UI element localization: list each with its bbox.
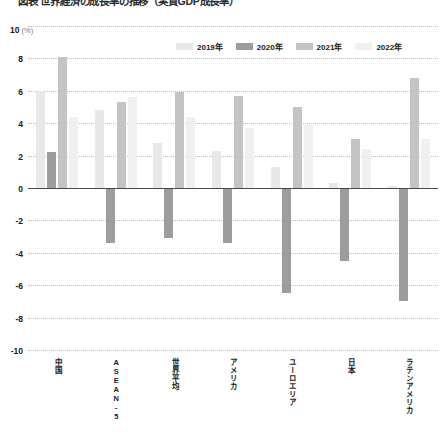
y-axis-tick-label: -2: [15, 216, 23, 226]
x-axis-label-cell: ユーロエリア: [262, 358, 321, 439]
legend-swatch: [355, 43, 372, 50]
x-axis-label: 中国: [53, 358, 61, 374]
y-axis-tick-label: 0: [18, 184, 23, 194]
bar[interactable]: [164, 188, 173, 238]
y-axis-tick-label: -8: [15, 314, 23, 324]
y-axis-tick-label: 2: [18, 152, 23, 162]
x-axis-label-cell: ラテンアメリカ: [379, 358, 438, 439]
chart-title: 図表 世界経済の成長率の推移（実質GDP成長率）: [18, 0, 239, 8]
bar[interactable]: [399, 188, 408, 301]
x-axis-label: 日本: [346, 358, 354, 374]
gridline: -10: [28, 350, 438, 351]
y-axis-tick-label: 4: [18, 119, 23, 129]
legend-swatch: [176, 43, 193, 50]
bar[interactable]: [410, 78, 419, 188]
growth-rate-bar-chart: 図表 世界経済の成長率の推移（実質GDP成長率） 10(%) 2019年2020…: [0, 0, 446, 439]
bar[interactable]: [95, 110, 104, 188]
x-axis-label-cell: 世界平均: [145, 358, 204, 439]
legend-item[interactable]: 2022年: [355, 41, 402, 52]
x-axis-label: ユーロエリア: [288, 358, 296, 406]
bar[interactable]: [282, 188, 291, 293]
bar[interactable]: [36, 91, 45, 188]
y-axis-tick-label: 8: [18, 54, 23, 64]
legend-swatch: [296, 43, 313, 50]
x-axis-label-cell: 中国: [28, 358, 87, 439]
y-axis-tick-label: -4: [15, 249, 23, 259]
bar[interactable]: [69, 117, 78, 188]
bar[interactable]: [271, 167, 280, 188]
bar[interactable]: [293, 107, 302, 188]
x-axis-label: ラテンアメリカ: [405, 358, 413, 414]
bar[interactable]: [128, 97, 137, 188]
legend-label: 2019年: [197, 41, 223, 52]
x-axis-label-cell: 日本: [321, 358, 380, 439]
x-axis-label: アメリカ: [229, 358, 237, 390]
legend-item[interactable]: 2019年: [176, 41, 223, 52]
legend-label: 2020年: [257, 41, 283, 52]
bar[interactable]: [153, 143, 162, 188]
legend-item[interactable]: 2020年: [236, 41, 283, 52]
x-axis-label: 世界平均: [171, 358, 179, 390]
legend-label: 2022年: [376, 41, 402, 52]
bar[interactable]: [304, 125, 313, 188]
bar[interactable]: [47, 152, 56, 188]
chart-legend: 2019年2020年2021年2022年: [176, 41, 402, 52]
bar[interactable]: [351, 139, 360, 188]
chart-title-strip: 図表 世界経済の成長率の推移（実質GDP成長率）: [0, 0, 446, 12]
y-axis-tick-label: 6: [18, 87, 23, 97]
bar[interactable]: [234, 96, 243, 188]
bar[interactable]: [212, 151, 221, 188]
bar[interactable]: [175, 92, 184, 188]
plot-area: 1086420-2-4-6-8-10: [28, 26, 438, 350]
bar[interactable]: [421, 139, 430, 188]
legend-swatch: [236, 43, 253, 50]
bar[interactable]: [186, 117, 195, 188]
x-axis-label-cell: ASEAN-5: [87, 358, 146, 439]
legend-label: 2021年: [317, 41, 343, 52]
bar[interactable]: [106, 188, 115, 243]
zero-axis-line: 0: [28, 188, 438, 189]
bar[interactable]: [340, 188, 349, 261]
x-axis-label-cell: アメリカ: [204, 358, 263, 439]
bar[interactable]: [362, 149, 371, 188]
y-axis-top-value: 10: [10, 25, 19, 35]
bar[interactable]: [117, 102, 126, 188]
x-axis-label: ASEAN-5: [112, 358, 120, 421]
y-axis-tick-label: -6: [15, 281, 23, 291]
bar[interactable]: [245, 128, 254, 188]
bar[interactable]: [58, 57, 67, 188]
legend-item[interactable]: 2021年: [296, 41, 343, 52]
y-axis-tick-label: -10: [11, 346, 23, 356]
x-axis-labels: 中国ASEAN-5世界平均アメリカユーロエリア日本ラテンアメリカ: [28, 358, 438, 439]
bar[interactable]: [223, 188, 232, 243]
